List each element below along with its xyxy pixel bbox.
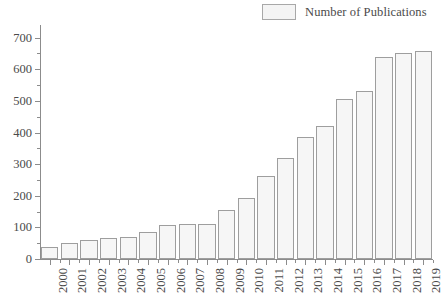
x-tick-2006 [168, 260, 169, 265]
y-tick-label-0: 0 [26, 252, 32, 267]
x-tick-2009 [227, 260, 228, 265]
bar-2012 [277, 158, 294, 260]
y-tick-100 [35, 227, 40, 228]
bar-2000 [41, 247, 58, 259]
y-tick-label-400: 400 [13, 125, 32, 140]
x-minor-tick-5 [158, 260, 159, 263]
x-minor-tick-14 [335, 260, 336, 263]
chart-legend: Number of Publications [262, 4, 427, 20]
bar-2011 [257, 176, 274, 259]
bar-2008 [198, 224, 215, 259]
x-minor-tick-9 [237, 260, 238, 263]
legend-swatch-number-of-publications [262, 4, 296, 20]
legend-label-number-of-publications: Number of Publications [305, 5, 427, 20]
y-minor-tick-650 [37, 53, 40, 54]
y-tick-label-600: 600 [13, 62, 32, 77]
y-tick-400 [35, 133, 40, 134]
x-tick-2003 [109, 260, 110, 265]
bar-2009 [218, 210, 235, 259]
x-minor-tick-3 [119, 260, 120, 263]
bar-2004 [120, 237, 137, 259]
x-tick-label-2008: 2008 [213, 268, 228, 293]
x-minor-tick-13 [315, 260, 316, 263]
y-tick-label-300: 300 [13, 157, 32, 172]
y-axis-line [40, 25, 41, 260]
bar-2013 [297, 137, 314, 259]
x-tick-label-2003: 2003 [115, 268, 130, 293]
x-minor-tick-6 [178, 260, 179, 263]
x-tick-2013 [305, 260, 306, 265]
y-minor-tick-250 [37, 180, 40, 181]
x-tick-2002 [89, 260, 90, 265]
y-tick-0 [35, 259, 40, 260]
x-minor-tick-1 [79, 260, 80, 263]
y-minor-tick-550 [37, 85, 40, 86]
x-tick-label-2009: 2009 [233, 268, 248, 293]
x-tick-label-2004: 2004 [134, 268, 149, 293]
bar-2007 [179, 224, 196, 259]
x-tick-2008 [207, 260, 208, 265]
x-tick-2010 [246, 260, 247, 265]
x-tick-2015 [345, 260, 346, 265]
x-tick-2014 [325, 260, 326, 265]
x-tick-2019 [423, 260, 424, 265]
bar-2006 [159, 225, 176, 259]
x-tick-label-2012: 2012 [292, 268, 307, 293]
x-tick-label-2000: 2000 [56, 268, 71, 293]
y-tick-200 [35, 196, 40, 197]
y-tick-500 [35, 101, 40, 102]
x-minor-tick-4 [138, 260, 139, 263]
x-tick-label-2007: 2007 [193, 268, 208, 293]
x-tick-label-2005: 2005 [154, 268, 169, 293]
x-tick-2007 [187, 260, 188, 265]
y-tick-600 [35, 69, 40, 70]
x-tick-2012 [286, 260, 287, 265]
y-minor-tick-50 [37, 243, 40, 244]
y-minor-tick-150 [37, 212, 40, 213]
plot-area: 0100200300400500600700 20002001200220032… [40, 25, 433, 259]
x-minor-tick-2 [99, 260, 100, 263]
bar-2017 [375, 57, 392, 259]
y-tick-label-700: 700 [13, 30, 32, 45]
y-tick-700 [35, 38, 40, 39]
x-tick-2011 [266, 260, 267, 265]
x-minor-tick-12 [295, 260, 296, 263]
bar-2002 [80, 240, 97, 259]
y-minor-tick-350 [37, 148, 40, 149]
y-tick-300 [35, 164, 40, 165]
x-minor-tick-10 [256, 260, 257, 263]
x-tick-2017 [384, 260, 385, 265]
x-minor-tick-15 [354, 260, 355, 263]
x-tick-label-2016: 2016 [370, 268, 385, 293]
bar-2019 [415, 51, 432, 259]
bar-2014 [316, 126, 333, 259]
x-minor-tick-18 [413, 260, 414, 263]
bar-2005 [139, 232, 156, 259]
x-minor-tick-7 [197, 260, 198, 263]
x-minor-tick-16 [374, 260, 375, 263]
x-tick-label-2001: 2001 [75, 268, 90, 293]
x-tick-2001 [69, 260, 70, 265]
x-tick-label-2010: 2010 [252, 268, 267, 293]
x-minor-tick-8 [217, 260, 218, 263]
x-tick-2000 [50, 260, 51, 265]
x-tick-label-2017: 2017 [390, 268, 405, 293]
x-tick-label-2006: 2006 [174, 268, 189, 293]
x-tick-2018 [404, 260, 405, 265]
bar-2010 [238, 198, 255, 259]
x-minor-tick-11 [276, 260, 277, 263]
bar-2016 [356, 91, 373, 259]
y-minor-tick-450 [37, 117, 40, 118]
x-tick-2005 [148, 260, 149, 265]
x-tick-label-2018: 2018 [410, 268, 425, 293]
x-tick-label-2011: 2011 [272, 268, 287, 293]
x-tick-2004 [128, 260, 129, 265]
bar-2003 [100, 238, 117, 259]
x-tick-label-2019: 2019 [429, 268, 444, 293]
x-minor-tick-17 [394, 260, 395, 263]
bar-2015 [336, 99, 353, 259]
x-tick-2016 [364, 260, 365, 265]
x-tick-label-2002: 2002 [95, 268, 110, 293]
y-tick-label-100: 100 [13, 220, 32, 235]
